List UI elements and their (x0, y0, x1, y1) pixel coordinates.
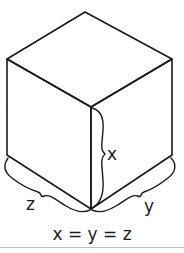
brace-y (92, 158, 175, 212)
bottom-divider (0, 247, 184, 248)
label-x: x (107, 144, 117, 164)
label-y: y (144, 196, 154, 216)
caption-equation: x = y = z (52, 224, 131, 244)
brace-z (5, 158, 90, 212)
cube-diagram: x z y x = y = z (0, 0, 184, 253)
brace-x (92, 108, 105, 208)
cube-top-face (7, 12, 172, 107)
cube-left-face (7, 59, 91, 209)
label-z: z (26, 194, 35, 214)
